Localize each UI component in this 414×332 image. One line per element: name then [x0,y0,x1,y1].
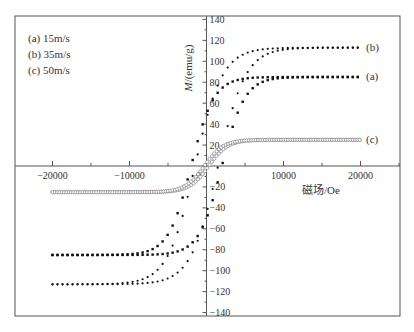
data-point [241,78,243,80]
legend: (a) 15m/s(b) 35m/s(c) 50m/s [28,32,70,77]
data-point [187,260,189,262]
hysteresis-chart: −20000−1000001000020000−140−120−100−80−6… [0,0,414,332]
data-point [231,126,233,128]
data-point [352,47,354,49]
data-point [141,254,143,256]
data-point [242,54,244,56]
data-point [212,188,214,190]
data-point [186,245,188,247]
data-point [202,225,204,227]
data-point [71,283,73,285]
data-point [156,253,158,255]
data-point [162,263,164,265]
data-point [141,282,143,284]
data-point [141,251,143,253]
data-point [302,47,304,49]
data-point [267,76,269,78]
data-point [226,83,228,85]
data-point [358,138,361,141]
data-point [131,281,133,283]
data-point [81,283,83,285]
data-point [307,47,309,49]
data-point [282,47,284,49]
data-point [357,47,359,49]
data-point [146,276,148,278]
data-point [196,140,198,142]
data-point [197,153,199,155]
data-point [136,283,138,285]
data-point [136,252,138,254]
data-point [166,234,168,236]
data-point [212,98,214,100]
data-point [203,163,206,166]
data-point [106,254,108,256]
data-point [287,76,289,78]
data-point [182,215,184,217]
data-point [91,283,93,285]
data-point [206,214,208,216]
y-tick-label: 60 [210,98,220,109]
data-point [61,283,63,285]
data-point [162,279,164,281]
y-tick-label: −80 [210,244,226,255]
data-point [216,181,218,183]
data-point [151,248,153,250]
data-point [196,173,199,176]
data-point [206,110,208,112]
data-point [222,74,224,76]
data-point [297,76,299,78]
data-point [207,114,209,116]
data-point [177,271,179,273]
data-point [277,50,279,52]
data-point [121,253,123,255]
data-point [111,254,113,256]
data-point [181,196,183,198]
data-point [210,160,213,163]
x-tick-label: 20000 [348,170,373,181]
data-point [327,76,329,78]
data-point [151,253,153,255]
legend-entry: (b) 35m/s [28,48,70,61]
legend-entry: (a) 15m/s [28,32,70,45]
axes: −20000−1000001000020000−140−120−100−80−6… [15,14,400,318]
data-point [197,240,199,242]
data-point [121,282,123,284]
y-tick-label: −140 [210,307,231,318]
data-point [192,251,194,253]
data-point [194,175,197,178]
data-point [206,160,209,163]
data-point [126,281,128,283]
data-point [237,57,239,59]
data-point [101,283,103,285]
data-point [232,61,234,63]
data-point [246,93,248,95]
data-point [347,47,349,49]
data-point [182,267,184,269]
y-tick-label: 140 [210,14,225,25]
data-point [227,125,229,127]
data-point [201,166,204,169]
curve-label-c: (c) [366,133,379,146]
data-point [96,283,98,285]
data-point [157,280,159,282]
data-point [282,76,284,78]
data-point [257,76,259,78]
data-point [317,76,319,78]
data-point [317,47,319,49]
data-point [191,241,193,243]
data-point [152,281,154,283]
data-point [211,199,213,201]
data-point [86,283,88,285]
data-point [252,50,254,52]
data-point [56,254,58,256]
data-point [272,51,274,53]
data-point [217,84,219,86]
data-point [257,83,259,85]
data-point [111,283,113,285]
data-point [86,254,88,256]
data-point [177,231,179,233]
data-point [161,240,163,242]
data-point [116,254,118,256]
data-point [191,159,193,161]
data-point [242,80,244,82]
